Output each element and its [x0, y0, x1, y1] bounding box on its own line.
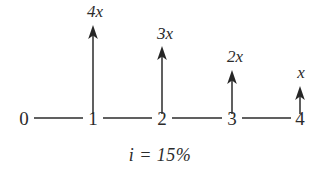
timeline-node-0: 0 [19, 109, 29, 128]
cash-flow-diagram: 0 1 2 3 4 4x 3x 2x x i = 15% [0, 0, 320, 176]
timeline-node-3: 3 [227, 109, 237, 128]
cash-flow-arrow-period-1 [88, 25, 98, 114]
cash-flow-label-period-3: 2x [227, 48, 243, 65]
timeline-node-4: 4 [295, 109, 305, 128]
timeline-node-2: 2 [157, 109, 167, 128]
cash-flow-label-period-4: x [297, 64, 305, 81]
cash-flow-label-period-1: 4x [87, 3, 103, 20]
timeline-node-1: 1 [88, 109, 98, 128]
cash-flow-label-period-2: 3x [157, 25, 173, 42]
cash-flow-arrow-period-2 [157, 46, 167, 114]
interest-rate-caption: i = 15% [129, 146, 192, 164]
